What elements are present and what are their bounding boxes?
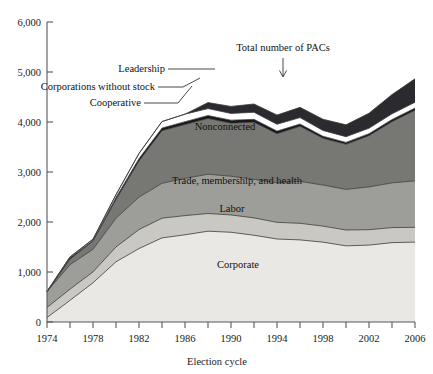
- x-tick-labels: 197419781982198619901994199820022006: [37, 333, 426, 344]
- y-tick-label: 1,000: [17, 267, 41, 278]
- callout-label-leadership: Leadership: [118, 63, 165, 74]
- x-tick-label: 1986: [175, 333, 196, 344]
- y-tick-label: 4,000: [17, 117, 41, 128]
- annotation-arrow-total-pacs: [280, 58, 287, 77]
- chart-canvas: 01,0002,0003,0004,0005,0006,000 19741978…: [0, 0, 433, 374]
- x-tick-label: 2006: [405, 333, 426, 344]
- y-tick-label: 6,000: [17, 17, 41, 28]
- x-tick-label: 1998: [313, 333, 334, 344]
- x-tick-label: 2002: [359, 333, 380, 344]
- band-label-nonconnected: Nonconnected: [195, 121, 256, 132]
- x-tick-label: 1982: [129, 333, 150, 344]
- y-tick-label: 5,000: [17, 67, 41, 78]
- y-tick-labels: 01,0002,0003,0004,0005,0006,000: [17, 17, 41, 328]
- x-axis-title: Election cycle: [187, 356, 247, 367]
- band-label-trade-membership-health: Trade, membership, and health: [172, 175, 303, 186]
- pac-growth-area-chart: 01,0002,0003,0004,0005,0006,000 19741978…: [0, 0, 433, 374]
- callout-label-corporations-without-stock: Corporations without stock: [41, 81, 156, 92]
- band-label-corporate: Corporate: [217, 259, 259, 270]
- y-tick-label: 2,000: [17, 217, 41, 228]
- stacked-area-layers: [47, 79, 415, 322]
- x-tick-label: 1978: [83, 333, 104, 344]
- annotation-label-total-pacs: Total number of PACs: [236, 42, 330, 53]
- x-tick-label: 1994: [267, 333, 289, 344]
- y-tick-label: 0: [36, 317, 41, 328]
- leader-line-corporations-without-stock: [158, 78, 200, 87]
- callout-label-cooperative: Cooperative: [90, 97, 142, 108]
- x-tick-label: 1974: [37, 333, 59, 344]
- y-tick-label: 3,000: [17, 167, 41, 178]
- band-label-labor: Labor: [219, 203, 245, 214]
- y-tick-marks: [47, 22, 53, 322]
- x-tick-label: 1990: [221, 333, 242, 344]
- x-tick-marks: [47, 322, 415, 328]
